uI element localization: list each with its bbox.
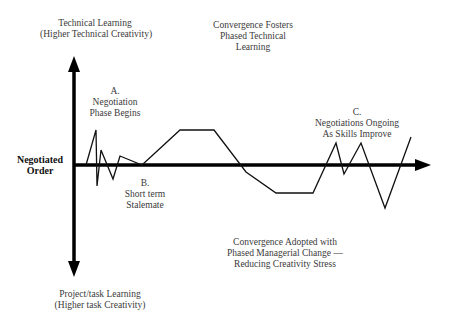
annotation-c-line3: As Skills Improve	[312, 129, 402, 140]
top-axis-label: Technical Learning (Higher Technical Cre…	[40, 18, 150, 40]
annotation-b-line1: B.	[120, 178, 170, 189]
annotation-b-line3: Stalemate	[120, 200, 170, 211]
bottom-axis-label-line2: (Higher task Creativity)	[50, 300, 150, 311]
annotation-c: C. Negotiations Ongoing As Skills Improv…	[312, 107, 402, 140]
up-arrow-icon	[68, 56, 80, 72]
annotation-a-line2: Negotiation	[85, 97, 145, 108]
top-axis-label-line1: Technical Learning	[40, 18, 150, 29]
annotation-b-line2: Short term	[120, 189, 170, 200]
convergence-bottom-line3: Reducing Creativity Stress	[225, 259, 345, 270]
right-arrow-icon	[415, 159, 431, 171]
top-axis-label-line2: (Higher Technical Creativity)	[40, 29, 150, 40]
annotation-c-line2: Negotiations Ongoing	[312, 118, 402, 129]
down-arrow-icon	[68, 261, 80, 277]
annotation-a-line1: A.	[85, 86, 145, 97]
convergence-bottom-label: Convergence Adopted with Phased Manageri…	[225, 237, 345, 270]
annotation-c-line1: C.	[312, 107, 402, 118]
annotation-b: B. Short term Stalemate	[120, 178, 170, 211]
annotation-a: A. Negotiation Phase Begins	[85, 86, 145, 119]
convergence-top-line3: Learning	[208, 42, 298, 53]
negotiated-order-line1: Negotiated	[14, 154, 66, 165]
bottom-axis-label-line1: Project/task Learning	[50, 289, 150, 300]
convergence-bottom-line1: Convergence Adopted with	[225, 237, 345, 248]
annotation-a-line3: Phase Begins	[85, 108, 145, 119]
bottom-axis-label: Project/task Learning (Higher task Creat…	[50, 289, 150, 311]
convergence-top-line1: Convergence Fosters	[208, 20, 298, 31]
negotiated-order-label: Negotiated Order	[14, 154, 66, 176]
convergence-bottom-line2: Phased Managerial Change —	[225, 248, 345, 259]
convergence-top-line2: Phased Technical	[208, 31, 298, 42]
convergence-top-label: Convergence Fosters Phased Technical Lea…	[208, 20, 298, 53]
negotiated-order-line2: Order	[14, 165, 66, 176]
